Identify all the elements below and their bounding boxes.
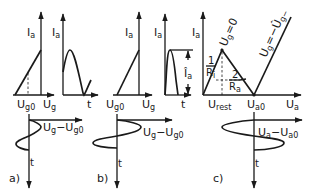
ug-ug0-label: Ug−Ug0: [143, 126, 184, 140]
panel-c-tag: c): [213, 172, 223, 185]
ra-leader: [240, 79, 246, 80]
panel-a-input-chart: Ug−Ug0 t a): [9, 114, 84, 188]
panel-b-transfer-chart: Ia Ug0 Ug: [106, 12, 155, 112]
t-label: t: [87, 98, 92, 111]
t-label: t: [30, 157, 34, 168]
t-label: t: [255, 158, 259, 169]
ug-zero-curve-label: Ug=0: [217, 16, 242, 49]
ia-axis-label: Ia: [125, 26, 133, 40]
svg-text:1: 1: [208, 55, 214, 66]
ug-label: Ug: [43, 98, 56, 112]
peak-point: [220, 48, 223, 51]
ug0-label: Ug0: [17, 98, 35, 112]
panel-b: Ia Ug0 Ug Ia Îa t Ug−Ug0 t b): [93, 12, 193, 188]
ua-ua0-label: Ua−Ua0: [258, 126, 298, 140]
transfer-line: [117, 50, 139, 95]
ia-axis-label: Ia: [27, 26, 35, 40]
ia-axis-label: Ia: [52, 26, 60, 40]
panel-b-input-chart: Ug−Ug0 t b): [93, 114, 184, 188]
urest-label: Urest: [208, 98, 231, 112]
panel-a: Ia Ug0 Ug Ia t Ug−Ug0 t a): [9, 12, 98, 188]
output-sine-wave: [63, 50, 91, 95]
ua0-label: Ua0: [247, 98, 265, 112]
ia-axis-label: Ia: [192, 26, 200, 40]
ug0-label: Ug0: [106, 98, 124, 112]
ug-label: Ug: [142, 98, 155, 112]
half-wave-pulse: [165, 50, 178, 95]
panel-a-tag: a): [9, 172, 20, 185]
panel-b-output-chart: Ia Îa t: [154, 14, 193, 111]
amplifier-operating-class-diagram: Ia Ug0 Ug Ia t Ug−Ug0 t a) Ia Ug0: [0, 0, 318, 194]
panel-b-tag: b): [97, 172, 108, 185]
amplitude-label: Îa: [183, 67, 192, 81]
panel-c: Ia Ug=0 Ug=−Ûg− 1 Ri 2 Ra Urest Ua0 Ua U…: [192, 7, 302, 188]
quiescent-point: [252, 93, 255, 96]
ua-axis-label: Ua: [286, 98, 299, 112]
panel-a-transfer-chart: Ia Ug0 Ug: [13, 12, 56, 112]
ia-axis-label: Ia: [154, 26, 162, 40]
t-label: t: [118, 158, 122, 169]
panel-c-output-chart: Ua−Ua0 t c): [213, 112, 302, 188]
t-label: t: [181, 98, 186, 111]
svg-text:2: 2: [232, 69, 238, 80]
svg-text:Ra: Ra: [229, 81, 241, 94]
panel-a-output-chart: Ia t: [52, 14, 98, 111]
ug-ug0-label: Ug−Ug0: [43, 121, 84, 135]
panel-c-characteristic-chart: Ia Ug=0 Ug=−Ûg− 1 Ri 2 Ra Urest Ua0 Ua: [192, 7, 301, 112]
